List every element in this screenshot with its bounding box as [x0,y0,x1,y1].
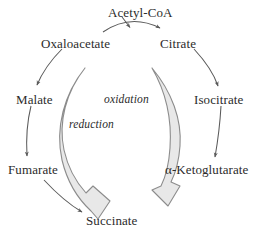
arrow-isocitrate-to-alpha-ketoglutarate [215,106,221,157]
diagram-canvas [0,0,262,237]
node-label-citrate: Citrate [160,37,196,50]
arrow-oxaloacetate-to-citrate [103,22,160,32]
node-label-acetyl-coa: Acetyl-CoA [108,6,173,19]
node-label-fumarate: Fumarate [8,163,58,176]
node-label-malate: Malate [16,93,53,106]
reduction-band-arrow [60,68,110,219]
node-label-succinate: Succinate [86,214,137,227]
citric-acid-cycle-diagram: Acetyl-CoA Oxaloacetate Citrate Malate I… [0,0,262,237]
oxidation-band-arrow [152,68,180,206]
node-label-isocitrate: Isocitrate [194,93,243,106]
node-label-oxaloacetate: Oxaloacetate [41,37,110,50]
arrow-citrate-to-isocitrate [194,49,218,86]
node-label-alpha-ketoglutarate: α-Ketoglutarate [165,163,248,176]
process-label-oxidation: oxidation [104,94,149,106]
arrow-oxaloacetate-to-malate [37,49,62,85]
arrow-malate-to-fumarate [27,106,31,156]
process-label-reduction: reduction [69,119,114,131]
